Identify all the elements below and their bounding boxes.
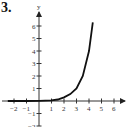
- svg-text:−2: −2: [28, 123, 36, 128]
- svg-text:1: 1: [50, 105, 54, 113]
- svg-text:−2: −2: [10, 105, 18, 113]
- svg-text:4: 4: [87, 105, 91, 113]
- svg-text:−1: −1: [28, 110, 36, 118]
- svg-text:6: 6: [32, 23, 36, 31]
- svg-text:5: 5: [100, 105, 104, 113]
- svg-text:2: 2: [62, 105, 66, 113]
- svg-text:6: 6: [112, 105, 116, 113]
- svg-text:2: 2: [32, 73, 36, 81]
- svg-text:5: 5: [32, 35, 36, 43]
- svg-text:3: 3: [75, 105, 79, 113]
- chart: −2−1123456 −2−1123456 y: [0, 0, 127, 127]
- curve: [8, 22, 93, 101]
- svg-text:3: 3: [32, 60, 36, 68]
- svg-text:4: 4: [32, 48, 36, 56]
- svg-text:1: 1: [32, 85, 36, 93]
- y-axis-label: y: [37, 3, 41, 11]
